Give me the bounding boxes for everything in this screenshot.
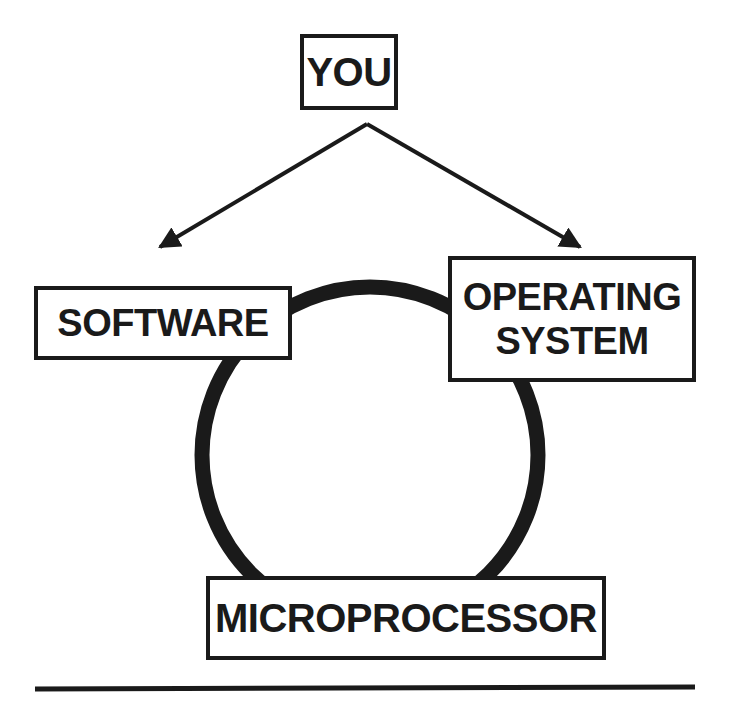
- node-software: SOFTWARE: [34, 286, 292, 360]
- node-microprocessor: MICROPROCESSOR: [206, 576, 606, 660]
- node-software-label: SOFTWARE: [57, 302, 268, 345]
- node-you-label: YOU: [306, 50, 391, 95]
- divider-line: [35, 687, 695, 689]
- node-you: YOU: [300, 34, 398, 110]
- node-operating-system-line1: OPERATING: [463, 275, 682, 319]
- node-operating-system: OPERATING SYSTEM: [448, 256, 696, 382]
- arrow-you-to-operating-system: [367, 124, 580, 247]
- arrow-you-to-software: [160, 124, 367, 247]
- node-microprocessor-label: MICROPROCESSOR: [215, 596, 597, 641]
- node-operating-system-line2: SYSTEM: [495, 319, 648, 363]
